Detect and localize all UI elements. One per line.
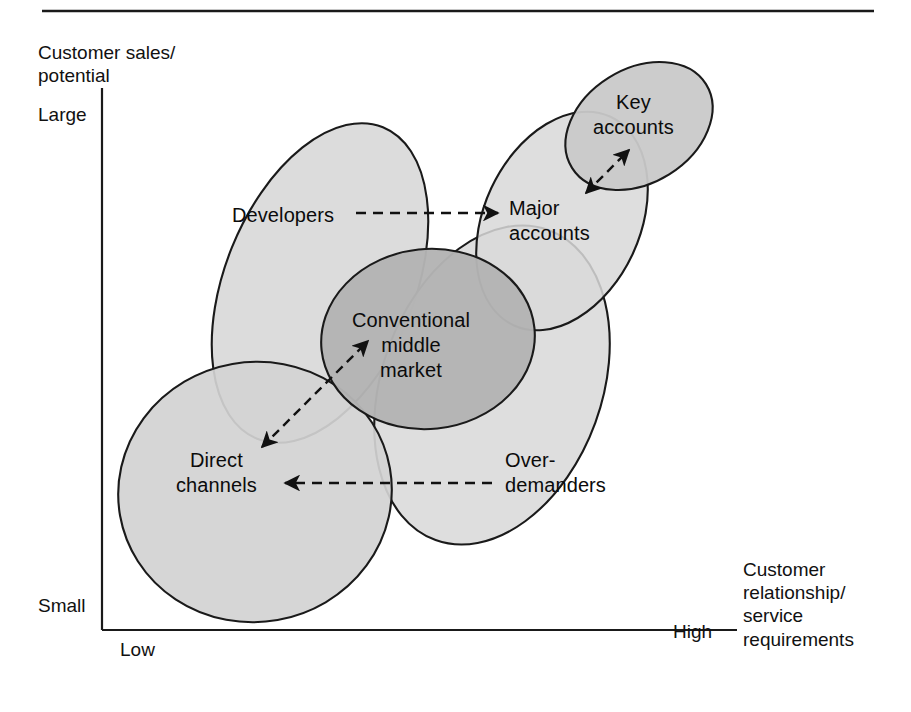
figure-canvas: Customer sales/ potential Large Small Lo… — [0, 0, 911, 712]
segment-label-over-demanders: Over- demanders — [505, 448, 606, 498]
x-axis-tick-high: High — [673, 620, 712, 643]
segment-label-developers: Developers — [232, 203, 334, 228]
segment-label-major-accounts: Major accounts — [509, 196, 590, 246]
x-axis-title: Customer relationship/ service requireme… — [743, 558, 854, 651]
y-axis-tick-small: Small — [38, 594, 86, 617]
segment-label-direct-channels: Direct channels — [176, 448, 257, 498]
x-axis-tick-low: Low — [120, 638, 155, 661]
segment-label-key-accounts: Key accounts — [593, 90, 674, 140]
y-axis-title: Customer sales/ potential — [38, 41, 175, 87]
segment-label-conventional-middle-market: Conventional middle market — [352, 308, 470, 383]
y-axis-tick-large: Large — [38, 103, 87, 126]
